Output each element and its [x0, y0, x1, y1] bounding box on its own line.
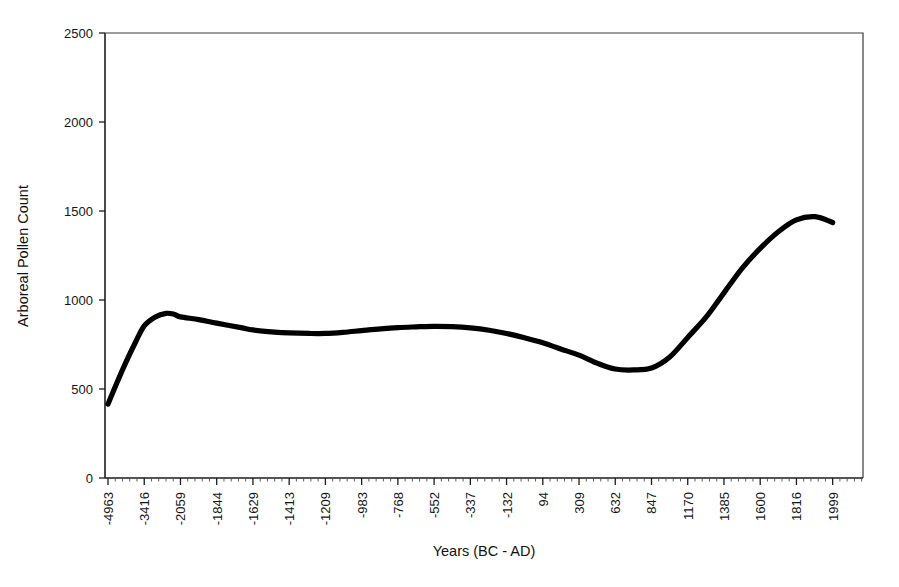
- x-axis-title: Years (BC - AD): [433, 543, 536, 559]
- x-axis-tick-label: 1999: [826, 492, 841, 521]
- x-axis-tick-label: -1629: [246, 492, 261, 525]
- x-axis-tick-label: -2059: [173, 492, 188, 525]
- x-axis-tick-labels: -4963-3416-2059-1844-1629-1413-1209-983-…: [101, 492, 841, 525]
- x-axis-tick-label: 1816: [789, 492, 804, 521]
- x-axis-tick-label: -768: [391, 492, 406, 518]
- x-axis-tick-label: -4963: [101, 492, 116, 525]
- x-axis-ticks: [108, 478, 833, 485]
- plot-frame: [105, 33, 863, 478]
- y-axis-ticks: [99, 33, 105, 478]
- x-axis-tick-label: -1844: [210, 492, 225, 525]
- y-axis-tick-label: 2000: [64, 115, 93, 130]
- y-axis-tick-label: 0: [86, 471, 93, 486]
- x-axis-tick-label: -3416: [137, 492, 152, 525]
- y-axis-tick-labels: 05001000150020002500: [64, 26, 93, 486]
- y-axis-title: Arboreal Pollen Count: [15, 185, 31, 327]
- pollen-count-chart: 05001000150020002500 -4963-3416-2059-184…: [0, 0, 899, 587]
- y-axis-tick-label: 1500: [64, 204, 93, 219]
- x-axis-tick-label: -552: [427, 492, 442, 518]
- y-axis-tick-label: 2500: [64, 26, 93, 41]
- x-axis-tick-label: -1413: [282, 492, 297, 525]
- data-series-line: [108, 217, 833, 405]
- y-axis-tick-label: 1000: [64, 293, 93, 308]
- x-axis-tick-label: 1170: [681, 492, 696, 520]
- x-axis-tick-label: 847: [644, 492, 659, 514]
- x-axis-tick-label: -1209: [318, 492, 333, 525]
- x-axis-tick-label: 1600: [753, 492, 768, 521]
- y-axis-tick-label: 500: [71, 382, 93, 397]
- x-axis-tick-label: 1385: [717, 492, 732, 521]
- chart-canvas: 05001000150020002500 -4963-3416-2059-184…: [0, 0, 899, 587]
- x-axis-tick-label: -983: [355, 492, 370, 518]
- x-axis-tick-label: -337: [463, 492, 478, 518]
- x-axis-tick-label: 309: [572, 492, 587, 514]
- x-axis-tick-label: -132: [500, 492, 515, 518]
- x-axis-tick-label: 94: [536, 492, 551, 506]
- x-axis-tick-label: 632: [608, 492, 623, 514]
